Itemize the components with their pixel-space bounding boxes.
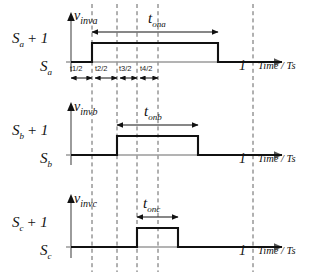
panel-c-low-sub: c	[48, 251, 52, 261]
panel-c-ontime-sub: onc	[147, 204, 160, 214]
panel-b-signal-sub: invb	[80, 106, 97, 117]
panel-b-waveform	[71, 136, 282, 155]
panel-a-ontime-sub: ona	[152, 19, 166, 29]
panel-a-axis-label: Time / Ts	[258, 60, 296, 71]
panel-b-ontime-label: tonb	[144, 103, 162, 122]
panel-b-signal-label: vinvb	[74, 99, 97, 117]
interval-label-t2: t2/2	[95, 64, 108, 73]
panel-a-graph	[66, 12, 282, 72]
panel-c-signal-sub: invc	[80, 198, 97, 209]
panel-c-high-base: S	[12, 214, 20, 230]
panel-b-low-base: S	[40, 150, 48, 166]
panel-b-high-level-label: Sb+ 1	[12, 122, 48, 141]
panel-c-graph	[66, 194, 282, 258]
panel-c-ontime-label: tonc	[143, 195, 160, 214]
panel-b-low-sub: b	[48, 159, 53, 169]
panel-c-waveform	[71, 228, 282, 247]
panel-c-low-level-label: Sc	[40, 242, 52, 261]
panel-a-low-level-label: Sa	[40, 58, 52, 77]
panel-c-axis-label: Time / Ts	[258, 245, 296, 256]
panel-b-high-base: S	[12, 122, 20, 138]
timing-diagram-figure: vinva Sa+ 1 Sa tona 1 Time / Ts t1/2 t2/…	[0, 0, 312, 274]
interval-label-t1: t1/2	[70, 64, 83, 73]
panel-a-signal-sub: inva	[80, 15, 97, 26]
panel-b-axis-label: Time / Ts	[258, 153, 296, 164]
panel-a-low-sub: a	[48, 67, 53, 77]
panel-c-high-sub: c	[20, 223, 24, 233]
panel-c-low-base: S	[40, 242, 48, 258]
panel-c-high-suffix: + 1	[27, 214, 48, 230]
panel-a-low-base: S	[40, 58, 48, 74]
panel-c-high-level-label: Sc+ 1	[12, 214, 48, 233]
panel-b-period-marker: 1	[239, 151, 246, 167]
panel-a-period-marker: 1	[239, 58, 246, 74]
panel-a-high-level-label: Sa+ 1	[12, 30, 48, 49]
panel-b-high-sub: b	[20, 131, 25, 141]
panel-a-signal-label: vinva	[74, 8, 97, 26]
panel-b-low-level-label: Sb	[40, 150, 52, 169]
interval-label-t3: t3/2	[119, 64, 132, 73]
panel-a-high-suffix: + 1	[27, 30, 48, 46]
panel-c-period-marker: 1	[239, 243, 246, 259]
panel-b-ontime-sub: onb	[148, 112, 162, 122]
panel-a-ontime-label: tona	[148, 10, 166, 29]
panel-a-high-base: S	[12, 30, 20, 46]
panel-b-high-suffix: + 1	[27, 122, 48, 138]
interval-label-t4: t4/2	[140, 64, 153, 73]
panel-a-waveform	[71, 43, 282, 62]
panel-b-graph	[66, 102, 282, 165]
panel-a-high-sub: a	[20, 39, 25, 49]
panel-c-signal-label: vinvc	[74, 191, 97, 209]
